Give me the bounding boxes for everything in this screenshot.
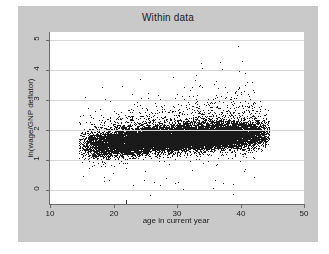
scatter-points-canvas [50,32,304,204]
low-tick-marker [126,200,127,204]
page-title: Within data [18,12,318,23]
y-tick-label-1: 1 [32,151,41,167]
gridline-y-5 [50,40,304,41]
x-axis-title: age in current year [49,216,303,225]
plot-area: 012345 1020304050 [49,32,304,205]
y-tick-label-4: 4 [32,61,41,77]
plot-inner [50,32,304,204]
y-axis-title-container: ln(wage/GNP deflator) [24,32,38,204]
y-tick-label-5: 5 [32,31,41,47]
y-tick-mark-5 [46,40,50,41]
gridline-y-0 [50,190,304,191]
y-tick-mark-3 [46,100,50,101]
gridline-y-3 [50,100,304,101]
y-tick-mark-4 [46,70,50,71]
y-axis-title: ln(wage/GNP deflator) [24,32,38,204]
gridline-y-4 [50,70,304,71]
x-tick-mark-50 [304,204,305,208]
y-tick-label-2: 2 [32,121,41,137]
y-tick-mark-1 [46,160,50,161]
y-tick-mark-2 [46,130,50,131]
gridline-y-2 [50,130,304,131]
figure-page: Within data ln(wage/GNP deflator) 012345… [0,0,329,254]
y-tick-label-0: 0 [32,181,41,197]
gridline-y-1 [50,160,304,161]
y-tick-mark-0 [46,190,50,191]
y-tick-label-3: 3 [32,91,41,107]
